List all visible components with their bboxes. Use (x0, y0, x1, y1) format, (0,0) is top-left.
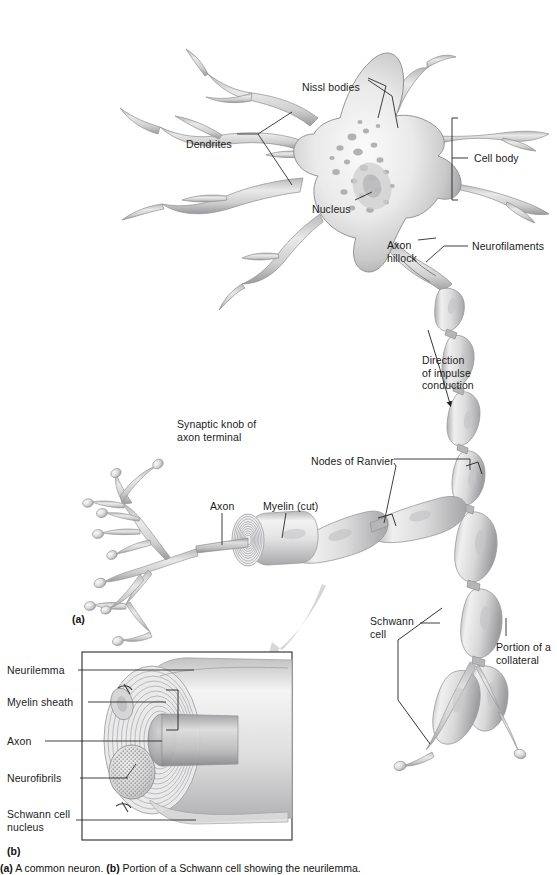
neuron-figure: Nissl bodies Dendrites Cell body Nucleus… (0, 0, 557, 875)
label-schwann-cell-nucleus: Schwann cell nucleus (7, 808, 70, 833)
neuron-artwork (0, 0, 557, 875)
collateral-branch (393, 662, 527, 772)
label-synaptic-knob: Synaptic knob of axon terminal (177, 418, 256, 443)
leader-axon-hillock (418, 238, 436, 240)
label-nodes-of-ranvier: Nodes of Ranvier (311, 455, 394, 468)
label-nucleus: Nucleus (312, 203, 351, 216)
label-myelin-sheath: Myelin sheath (7, 696, 73, 709)
label-schwann-cell: Schwann cell (370, 615, 414, 640)
leader-dendrites (237, 112, 292, 134)
leader-neurofilaments (426, 246, 468, 262)
seg-3 (447, 392, 480, 446)
label-myelin-cut: Myelin (cut) (263, 500, 318, 513)
caption-marker-a: (a) (0, 862, 13, 874)
figure-caption: (a) A common neuron. (b) Portion of a Sc… (0, 862, 557, 875)
label-dendrites: Dendrites (186, 138, 232, 151)
caption-text-a: A common neuron. (13, 862, 106, 874)
inset-axon-shaft (162, 714, 238, 766)
label-neurofilaments: Neurofilaments (472, 240, 544, 253)
label-axon: Axon (210, 500, 234, 513)
caption-marker-b: (b) (106, 862, 119, 874)
cut-myelin-cylinder (196, 511, 318, 566)
caption-text-b: Portion of a Schwann cell showing the ne… (120, 862, 361, 874)
label-cell-body: Cell body (474, 152, 519, 165)
panel-b-inset (82, 652, 292, 840)
label-direction-impulse: Direction of impulse conduction (422, 354, 474, 392)
panel-marker-b: (b) (7, 845, 20, 857)
label-neurofibrils: Neurofibrils (7, 772, 61, 785)
label-axon-inset: Axon (7, 735, 31, 748)
panel-marker-a: (a) (72, 613, 85, 625)
label-neurilemma: Neurilemma (7, 664, 65, 677)
label-axon-hillock: Axon hillock (387, 239, 417, 264)
label-portion-collateral: Portion of a collateral (496, 641, 551, 666)
label-nissl-bodies: Nissl bodies (302, 81, 360, 94)
